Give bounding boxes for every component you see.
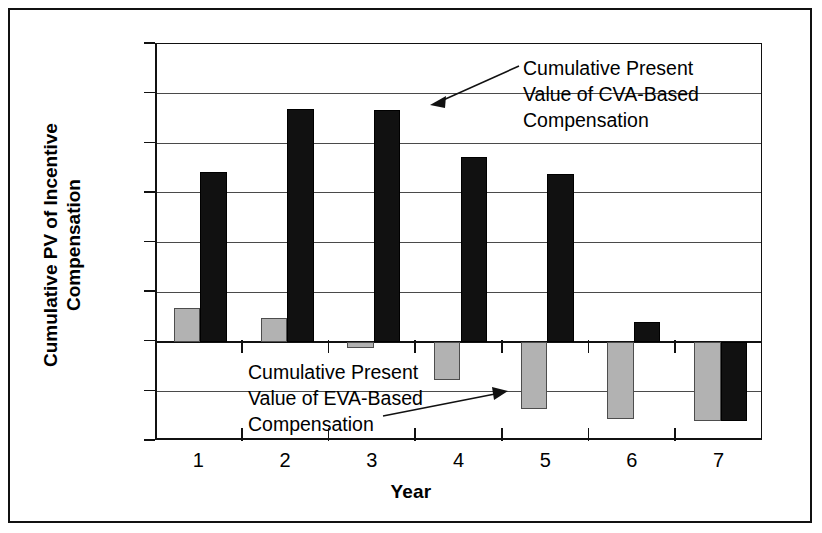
x-axis-zero-tick <box>674 340 676 353</box>
x-axis-tick <box>588 428 590 441</box>
y-axis-tick <box>144 142 155 143</box>
x-axis-tick-label: 1 <box>155 450 242 470</box>
cva-arrowhead-icon <box>430 96 446 108</box>
x-axis-tick-label: 3 <box>328 450 415 470</box>
x-axis-tick <box>414 428 416 441</box>
y-axis-tick <box>144 42 155 43</box>
y-axis-tick <box>144 340 155 341</box>
x-axis-tick <box>674 428 676 441</box>
x-axis-zero-tick <box>501 340 503 353</box>
y-axis-tick <box>144 191 155 192</box>
y-axis-tick <box>144 290 155 291</box>
x-axis-tick <box>501 428 503 441</box>
x-axis-tick-label: 4 <box>415 450 502 470</box>
x-axis-tick-label: 6 <box>589 450 676 470</box>
x-axis-tick-label: 7 <box>675 450 762 470</box>
x-axis-tick <box>328 428 330 441</box>
x-axis-tick <box>241 428 243 441</box>
x-axis-zero-tick <box>241 340 243 353</box>
x-axis-zero-tick <box>328 340 330 353</box>
eva-arrowhead-icon <box>492 387 508 400</box>
y-axis-tick <box>144 439 155 440</box>
y-axis-tick <box>144 241 155 242</box>
chart-figure: $12.00$10.00$8.00$6.00$4.00$2.00$0.00($2… <box>0 0 822 533</box>
x-axis-tick-label: 2 <box>242 450 329 470</box>
eva-leader-line <box>383 394 495 416</box>
y-axis-tick <box>144 92 155 93</box>
cva-leader-line <box>441 66 519 101</box>
y-axis-tick <box>144 390 155 391</box>
x-axis-zero-tick <box>588 340 590 353</box>
x-axis-tick-label: 5 <box>502 450 589 470</box>
x-axis-zero-tick <box>414 340 416 353</box>
